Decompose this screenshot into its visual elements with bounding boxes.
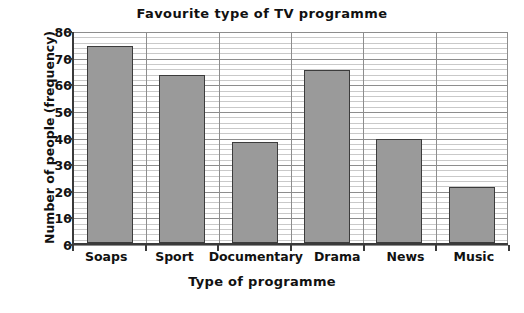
bar: [159, 75, 205, 243]
x-tick-label: Music: [440, 246, 508, 268]
bar-series: [74, 32, 508, 243]
bar: [304, 70, 350, 243]
bar-cell: [436, 32, 508, 243]
x-tick-label: Soaps: [72, 246, 140, 268]
bar: [87, 46, 133, 243]
x-tick-label: Sport: [140, 246, 208, 268]
bar: [376, 139, 422, 243]
bar: [232, 142, 278, 243]
bar-cell: [146, 32, 218, 243]
x-tick-label: News: [371, 246, 439, 268]
x-tick-label: Documentary: [209, 246, 303, 268]
bar-cell: [363, 32, 435, 243]
plot-area: [72, 32, 508, 245]
bar-cell: [219, 32, 291, 243]
chart-title: Favourite type of TV programme: [0, 6, 524, 21]
x-axis-label: Type of programme: [0, 274, 524, 289]
bar-cell: [291, 32, 363, 243]
bar: [449, 187, 495, 243]
x-tick-mark: [508, 245, 510, 251]
x-axis-tick-labels: SoapsSportDocumentaryDramaNewsMusic: [72, 246, 508, 268]
bar-cell: [74, 32, 146, 243]
x-tick-label: Drama: [303, 246, 371, 268]
bar-chart: Favourite type of TV programme Number of…: [0, 0, 524, 313]
